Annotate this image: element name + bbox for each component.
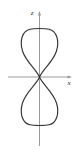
dipole-pattern-plot: z x xyxy=(0,0,79,153)
z-axis-arrow-icon xyxy=(38,11,41,16)
x-axis-label: x xyxy=(66,79,71,87)
figure-container: z x xyxy=(0,0,79,153)
z-axis-label: z xyxy=(30,9,34,17)
